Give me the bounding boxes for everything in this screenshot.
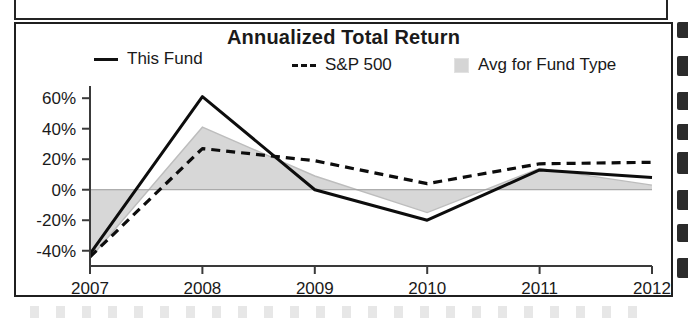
scan-edge-blotch [677, 224, 688, 242]
legend-item-sp-500: S&P 500 [292, 55, 392, 75]
page-right-edge [676, 0, 688, 324]
svg-text:2010: 2010 [408, 279, 446, 295]
svg-text:2007: 2007 [71, 279, 109, 295]
svg-text:40%: 40% [42, 120, 76, 139]
legend-label: Avg for Fund Type [478, 55, 616, 75]
chart-title: Annualized Total Return [16, 26, 671, 49]
scan-artifact-top-box [14, 0, 668, 20]
scan-edge-blotch [677, 258, 688, 278]
legend-item-this-fund: This Fund [94, 49, 203, 69]
dashed-line-swatch-icon [292, 64, 316, 67]
scan-edge-blotch [677, 124, 688, 140]
svg-text:0%: 0% [51, 181, 76, 200]
scan-edge-blotch [677, 92, 688, 110]
returns-plot: 60%40%20%0%-20%-40% 20072008200920102011… [16, 76, 671, 295]
scan-edge-blotch [677, 22, 688, 38]
scan-edge-blotch [677, 190, 688, 210]
x-axis-tick-labels: 200720082009201020112012 [71, 279, 671, 295]
svg-text:2009: 2009 [296, 279, 334, 295]
series-avg-for-fund-type [90, 127, 652, 258]
scan-artifact-bottom-noise [30, 306, 650, 318]
svg-text:20%: 20% [42, 150, 76, 169]
svg-text:60%: 60% [42, 89, 76, 108]
y-axis-tick-labels: 60%40%20%0%-20%-40% [36, 89, 76, 261]
legend-label: S&P 500 [325, 55, 392, 75]
scan-edge-blotch [677, 56, 688, 76]
svg-text:-40%: -40% [36, 242, 76, 261]
annualized-total-return-chart-panel: Annualized Total Return This Fund S&P 50… [14, 22, 673, 297]
chart-legend: This Fund S&P 500 Avg for Fund Type [16, 49, 671, 75]
shaded-area-swatch-icon [454, 58, 469, 73]
solid-line-swatch-icon [94, 58, 118, 61]
legend-label: This Fund [127, 49, 203, 69]
svg-text:-20%: -20% [36, 211, 76, 230]
svg-text:2012: 2012 [633, 279, 671, 295]
svg-text:2011: 2011 [521, 279, 558, 295]
legend-item-avg-for-fund-type: Avg for Fund Type [454, 55, 616, 75]
svg-text:2008: 2008 [183, 279, 221, 295]
scan-edge-blotch [677, 152, 688, 174]
